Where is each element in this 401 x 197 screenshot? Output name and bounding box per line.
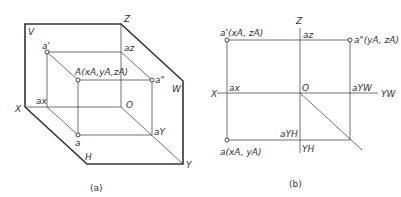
label-w: W xyxy=(172,84,182,94)
figure-b-labels: Z a'(xA, zA) az a"(yA, zA) X ax O aYW YW… xyxy=(210,16,399,189)
point-a-double-prime xyxy=(150,78,154,82)
label-a-double-prime: a" xyxy=(155,75,165,85)
label-ax-b: ax xyxy=(229,83,241,93)
label-a-b: a(xA, yA) xyxy=(220,147,261,157)
label-ax: ax xyxy=(36,96,48,106)
label-v: V xyxy=(28,27,35,37)
label-ay: aY xyxy=(154,127,167,137)
point-a-b xyxy=(225,138,229,142)
label-az-b: az xyxy=(303,30,314,40)
label-ayh: aYH xyxy=(280,129,298,139)
point-a-prime-b xyxy=(225,38,229,42)
caption-b: (b) xyxy=(289,179,302,189)
label-o-b: O xyxy=(302,83,309,93)
label-x-b: X xyxy=(210,89,218,99)
point-a-double-prime-b xyxy=(348,38,352,42)
figure-a-labels: V Z a' az A(xA,yA,zA) a" W ax X O a aY H… xyxy=(14,14,193,193)
label-yw: YW xyxy=(381,89,396,99)
point-a xyxy=(76,133,80,137)
point-A xyxy=(76,78,80,82)
label-az: az xyxy=(124,43,135,53)
label-ayw: aYW xyxy=(352,83,373,93)
label-a-double-prime-b: a"(yA, zA) xyxy=(354,35,399,45)
label-x: X xyxy=(14,104,22,114)
label-o: O xyxy=(126,100,133,110)
label-h: H xyxy=(85,152,92,162)
label-z-b: Z xyxy=(295,16,303,26)
diagonal-45 xyxy=(300,93,362,150)
label-A: A(xA,yA,zA) xyxy=(74,67,128,77)
label-z: Z xyxy=(123,14,131,24)
label-yh: YH xyxy=(302,144,314,154)
projection-diagram: V Z a' az A(xA,yA,zA) a" W ax X O a aY H… xyxy=(0,0,401,197)
label-a-prime: a' xyxy=(42,41,50,51)
caption-a: (a) xyxy=(90,183,103,193)
label-a-prime-b: a'(xA, zA) xyxy=(220,28,263,38)
label-y: Y xyxy=(186,160,193,170)
label-a: a xyxy=(75,138,81,148)
